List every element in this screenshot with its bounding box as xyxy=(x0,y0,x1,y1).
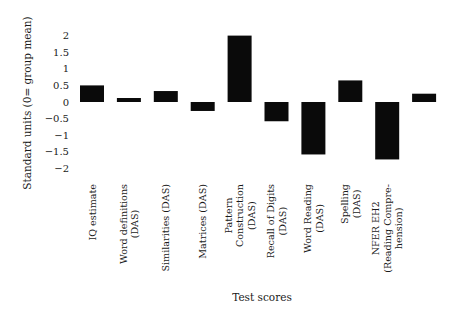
x-tick-label: (DAS) xyxy=(129,210,140,239)
x-tick-label: (DAS) xyxy=(277,207,288,236)
y-tick-label: −1.5 xyxy=(45,146,69,157)
x-tick-label: (DAS) xyxy=(314,204,325,233)
bar xyxy=(191,102,215,111)
y-tick-label: 1.5 xyxy=(53,47,69,58)
bar xyxy=(228,36,252,102)
x-tick-label: IQ estimate xyxy=(87,184,98,241)
x-tick-label: (DAS) xyxy=(246,201,257,230)
x-tick-label: Construction xyxy=(234,184,245,247)
x-tick-label: Spelling xyxy=(339,184,350,224)
x-tick-label: Similarities (DAS) xyxy=(160,184,171,272)
x-axis-labels: IQ estimateWord definitions(DAS)Similari… xyxy=(87,184,405,273)
bar xyxy=(80,85,104,102)
y-tick-label: −2 xyxy=(54,163,69,174)
bar xyxy=(154,91,178,102)
bar xyxy=(117,98,141,102)
y-axis-ticks: 21.510.50−0.5−1−1.5−2 xyxy=(45,30,69,174)
x-tick-label: Recall of Digits xyxy=(265,184,276,258)
x-axis-title: Test scores xyxy=(232,291,292,303)
y-tick-label: 0.5 xyxy=(53,80,69,91)
bars xyxy=(80,36,436,160)
x-tick-label: hension) xyxy=(393,208,404,250)
x-tick-label: Word Reading xyxy=(302,184,313,253)
bar xyxy=(265,102,289,121)
bar xyxy=(301,102,325,154)
x-tick-label: Pattern xyxy=(223,198,234,234)
bar-chart: 21.510.50−0.5−1−1.5−2 IQ estimateWord de… xyxy=(0,0,460,316)
x-tick-label: NFER EH2 xyxy=(370,202,381,256)
y-tick-label: −1 xyxy=(54,130,69,141)
bar xyxy=(412,94,436,102)
y-axis-title: Standard units (0= group mean) xyxy=(21,16,33,189)
bar xyxy=(375,102,399,159)
y-tick-label: 2 xyxy=(63,30,69,41)
x-tick-label: (Reading Compre- xyxy=(382,184,393,273)
x-tick-label: Word definitions xyxy=(118,184,129,264)
x-tick-label: Matrices (DAS) xyxy=(197,184,208,259)
bar xyxy=(338,80,362,102)
y-tick-label: 0 xyxy=(63,97,69,108)
y-tick-label: −0.5 xyxy=(45,113,69,124)
y-tick-label: 1 xyxy=(63,63,69,74)
x-tick-label: (DAS) xyxy=(351,190,362,219)
